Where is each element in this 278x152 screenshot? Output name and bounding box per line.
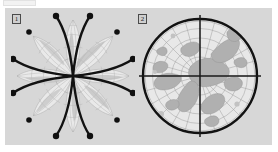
figure-panel: 1 2 [5,8,272,145]
figure-1-star-projection [11,10,135,142]
screenshot-root: 1 2 [0,0,278,152]
figure-2-polar-projection [137,10,265,142]
star-lobes [11,13,135,139]
crosshair-axes [139,15,261,137]
cropped-toolbar-strip [3,0,36,6]
figure-label-2: 2 [138,14,147,24]
figure-label-1: 1 [12,14,21,24]
